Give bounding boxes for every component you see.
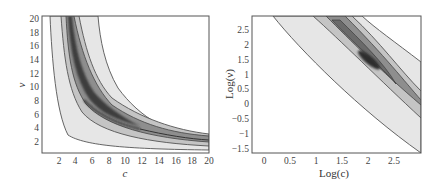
- svg-text:2.5: 2.5: [388, 156, 400, 166]
- right-plot: 2.5 2 1.5 1 0.5 0 −0.5 −1 −1.5 Log(ν) 0 …: [223, 16, 421, 180]
- svg-text:12: 12: [30, 69, 40, 79]
- left-plot: 20 18 16 14 12 10 8 6 4 2 ν 2 4 6 8 10 1…: [15, 14, 214, 179]
- right-x-axis: 0 0.5 1 1.5 2 2.5 Log(c): [262, 156, 401, 180]
- left-y-axis: 20 18 16 14 12 10 8 6 4 2 ν: [15, 14, 39, 147]
- right-contours: [273, 16, 421, 153]
- svg-text:6: 6: [90, 156, 95, 166]
- svg-text:8: 8: [34, 96, 39, 106]
- right-x-label: Log(c): [319, 167, 349, 180]
- left-x-label: c: [123, 167, 128, 179]
- svg-text:2.5: 2.5: [237, 25, 249, 35]
- svg-text:20: 20: [30, 14, 40, 24]
- svg-text:16: 16: [171, 156, 181, 166]
- svg-text:1.5: 1.5: [336, 156, 348, 166]
- svg-text:1: 1: [244, 70, 249, 80]
- svg-text:4: 4: [73, 156, 78, 166]
- svg-text:2: 2: [366, 156, 371, 166]
- svg-text:0.5: 0.5: [284, 156, 296, 166]
- left-y-label: ν: [15, 82, 27, 87]
- right-y-axis: 2.5 2 1.5 1 0.5 0 −0.5 −1 −1.5 Log(ν): [223, 25, 249, 154]
- svg-text:0: 0: [262, 156, 267, 166]
- svg-text:1: 1: [314, 156, 319, 166]
- svg-text:18: 18: [187, 156, 197, 166]
- svg-text:12: 12: [137, 156, 147, 166]
- svg-text:4: 4: [34, 123, 39, 133]
- left-contours: [50, 16, 209, 150]
- svg-text:−0.5: −0.5: [232, 114, 249, 124]
- svg-text:20: 20: [204, 156, 214, 166]
- svg-text:16: 16: [30, 41, 40, 51]
- svg-text:2: 2: [57, 156, 62, 166]
- svg-text:6: 6: [34, 110, 39, 120]
- left-x-axis: 2 4 6 8 10 12 14 16 18 20 c: [57, 156, 214, 179]
- right-y-label: Log(ν): [223, 69, 236, 99]
- svg-text:10: 10: [30, 82, 40, 92]
- svg-text:2: 2: [244, 40, 249, 50]
- svg-text:8: 8: [107, 156, 112, 166]
- svg-text:18: 18: [30, 28, 40, 38]
- svg-text:1.5: 1.5: [237, 55, 249, 65]
- svg-text:10: 10: [120, 156, 130, 166]
- svg-text:0.5: 0.5: [237, 84, 249, 94]
- svg-text:−1.5: −1.5: [232, 144, 249, 154]
- svg-text:−1: −1: [239, 129, 249, 139]
- svg-text:14: 14: [30, 55, 40, 65]
- svg-text:14: 14: [154, 156, 164, 166]
- svg-text:2: 2: [34, 137, 39, 147]
- svg-text:0: 0: [244, 99, 249, 109]
- figure: 20 18 16 14 12 10 8 6 4 2 ν 2 4 6 8 10 1…: [0, 0, 440, 188]
